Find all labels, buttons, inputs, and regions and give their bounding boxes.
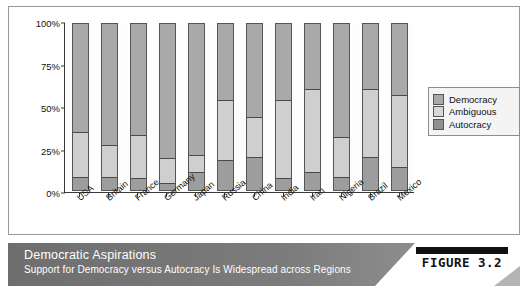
segment-democracy xyxy=(247,24,262,117)
chart-legend: Democracy Ambiguous Autocracy xyxy=(428,87,520,136)
figure-badge: FIGURE 3.2 xyxy=(410,247,514,270)
segment-ambiguous xyxy=(131,135,146,178)
segment-democracy xyxy=(276,24,291,100)
figure-badge-bar xyxy=(416,247,508,254)
segment-ambiguous xyxy=(247,117,262,157)
segment-ambiguous xyxy=(305,89,320,172)
bar-nigeria xyxy=(333,23,350,191)
bar-france xyxy=(130,23,147,191)
segment-democracy xyxy=(305,24,320,89)
y-axis-tick-label: 75% xyxy=(41,60,60,71)
chart-frame: 0%25%50%75%100% USABritainFranceGermanyJ… xyxy=(8,6,520,235)
y-axis-tick-label: 50% xyxy=(41,103,60,114)
segment-democracy xyxy=(160,24,175,158)
y-axis-tick-mark xyxy=(61,108,65,109)
segment-ambiguous xyxy=(102,145,117,177)
segment-ambiguous xyxy=(218,100,233,160)
segment-ambiguous xyxy=(160,158,175,183)
segment-ambiguous xyxy=(363,89,378,157)
segment-ambiguous xyxy=(392,95,407,166)
legend-item-autocracy: Autocracy xyxy=(433,119,514,130)
segment-democracy xyxy=(392,24,407,95)
bar-britain xyxy=(101,23,118,191)
bars-container xyxy=(66,23,414,191)
plot-area: 0%25%50%75%100% xyxy=(64,23,414,193)
bar-russia xyxy=(217,23,234,191)
bar-germany xyxy=(159,23,176,191)
segment-ambiguous xyxy=(189,155,204,172)
legend-item-ambiguous: Ambiguous xyxy=(433,106,514,117)
caption-subtitle: Support for Democracy versus Autocracy I… xyxy=(24,264,351,275)
figure-3-2: 0%25%50%75%100% USABritainFranceGermanyJ… xyxy=(0,0,532,293)
bar-china xyxy=(246,23,263,191)
segment-democracy xyxy=(363,24,378,89)
legend-label-democracy: Democracy xyxy=(449,94,497,105)
legend-swatch-democracy xyxy=(433,94,444,105)
bar-usa xyxy=(72,23,89,191)
segment-democracy xyxy=(131,24,146,135)
bar-brazil xyxy=(362,23,379,191)
caption-title: Democratic Aspirations xyxy=(24,248,351,262)
y-axis-tick-mark xyxy=(61,23,65,24)
y-axis-tick-mark xyxy=(61,150,65,151)
segment-ambiguous xyxy=(73,132,88,177)
segment-democracy xyxy=(102,24,117,145)
segment-ambiguous xyxy=(276,100,291,178)
figure-caption-banner: Democratic Aspirations Support for Democ… xyxy=(8,243,520,286)
segment-democracy xyxy=(189,24,204,155)
y-axis-tick-label: 0% xyxy=(46,188,60,199)
bar-japan xyxy=(188,23,205,191)
legend-swatch-ambiguous xyxy=(433,106,444,117)
y-axis-tick-mark xyxy=(61,65,65,66)
segment-democracy xyxy=(218,24,233,100)
legend-swatch-autocracy xyxy=(433,119,444,130)
segment-democracy xyxy=(334,24,349,137)
legend-label-ambiguous: Ambiguous xyxy=(449,106,497,117)
caption-text: Democratic Aspirations Support for Democ… xyxy=(24,248,351,275)
y-axis-tick-label: 100% xyxy=(36,18,60,29)
y-axis-tick-label: 25% xyxy=(41,145,60,156)
legend-label-autocracy: Autocracy xyxy=(449,119,491,130)
legend-item-democracy: Democracy xyxy=(433,94,514,105)
figure-number-label: FIGURE 3.2 xyxy=(410,255,514,270)
segment-democracy xyxy=(73,24,88,132)
bar-india xyxy=(275,23,292,191)
segment-ambiguous xyxy=(334,137,349,177)
bar-iran xyxy=(304,23,321,191)
bar-mexico xyxy=(391,23,408,191)
x-axis-labels: USABritainFranceGermanyJapanRussiaChinaI… xyxy=(64,193,414,241)
